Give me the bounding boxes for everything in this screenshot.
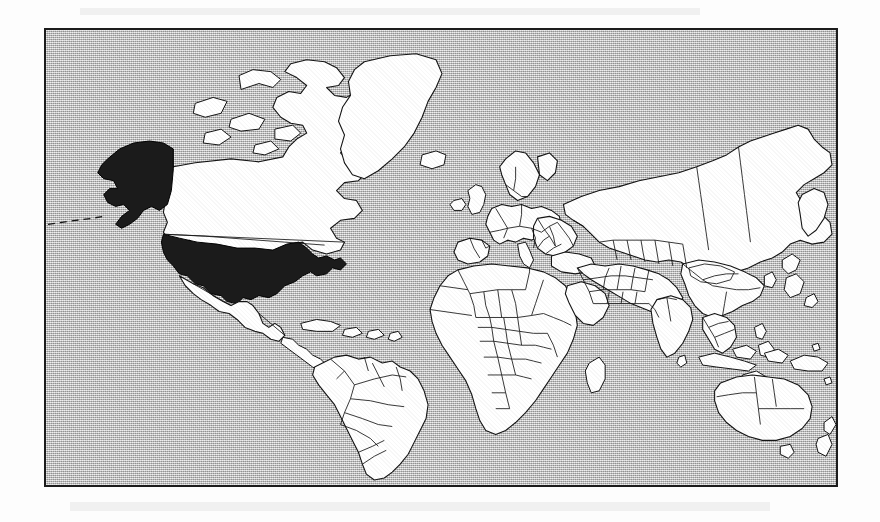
scan-artifact-top bbox=[80, 8, 700, 15]
region-new-guinea bbox=[790, 355, 828, 371]
region-madagascar bbox=[585, 357, 605, 393]
page-canvas bbox=[0, 0, 880, 522]
region-alaska bbox=[98, 141, 174, 228]
region-india bbox=[651, 296, 693, 357]
region-southeast-asia bbox=[703, 314, 737, 354]
region-sri-lanka bbox=[677, 355, 687, 367]
scan-artifact-bottom bbox=[70, 502, 770, 511]
region-italy bbox=[518, 242, 534, 268]
region-caribbean-islands bbox=[301, 319, 402, 341]
dateline-dashed-boundary bbox=[48, 216, 104, 224]
region-new-zealand bbox=[816, 417, 836, 457]
world-map-svg bbox=[46, 30, 836, 485]
region-british-isles bbox=[450, 185, 486, 215]
region-south-america bbox=[313, 355, 428, 480]
region-scandinavia bbox=[500, 151, 558, 201]
region-korea-japan bbox=[764, 254, 818, 308]
region-iceland bbox=[420, 151, 446, 169]
region-australia bbox=[715, 375, 813, 440]
region-tasmania bbox=[780, 444, 794, 458]
region-china bbox=[681, 260, 765, 317]
world-map-figure bbox=[44, 28, 838, 487]
